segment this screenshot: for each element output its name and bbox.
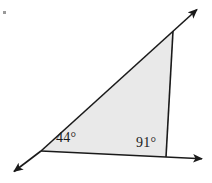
- ray-lower-left: [14, 151, 41, 172]
- angle-label-44: 44°: [56, 131, 76, 145]
- corner-dot: [3, 11, 6, 14]
- angle-label-91: 91°: [136, 136, 156, 150]
- geometry-figure: 44° 91°: [0, 0, 212, 183]
- geometry-canvas: [0, 0, 212, 183]
